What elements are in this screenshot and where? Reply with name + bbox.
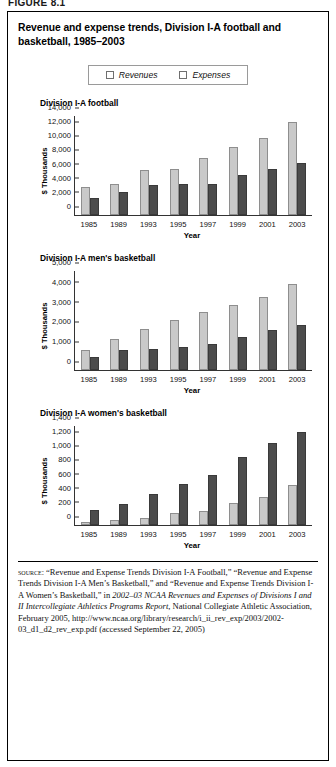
bar-revenues [110,520,119,525]
bar-expenses [238,457,247,525]
bar-expenses [238,337,247,370]
y-tick-label: 2,000 [52,187,75,196]
y-tick-label: 200 [58,497,75,506]
x-tick-label: 1989 [104,220,134,229]
y-tick-label: 600 [58,469,75,478]
y-tick-label: 8,000 [52,145,75,154]
bar-revenues [81,522,90,525]
bar-group [223,271,253,370]
bar-expenses [208,475,217,525]
y-axis-label-womens-basketball: $ Thousands [40,458,49,505]
plot-mens-basketball: $ Thousands 01,0002,0003,0004,0005,000 1… [20,267,318,385]
x-tick-label: 1985 [74,530,104,539]
legend-label-revenues: Revenues [119,70,158,80]
bar-group [282,271,312,370]
bar-group [134,116,164,215]
bar-expenses [90,510,99,525]
bar-expenses [179,184,188,215]
legend-item-revenues: Revenues [106,70,158,80]
bar-revenues [199,158,208,215]
x-tick-label: 1995 [163,220,193,229]
panel-title-football: Division I-A football [40,98,318,108]
bar-expenses [90,357,99,370]
bar-expenses [297,163,306,215]
bar-revenues [199,312,208,370]
bar-revenues [259,497,268,525]
plot-area-football: 02,0004,0006,0008,00010,00012,00014,000 [74,116,312,216]
bar-group [282,426,312,525]
panel-title-womens-basketball: Division I-A women's basketball [40,408,318,418]
bar-expenses [268,169,277,215]
bar-revenues [140,329,149,370]
x-tick-label: 1997 [193,375,223,384]
bar-group [282,116,312,215]
x-axis-title-mens-basketball: Year [66,386,318,395]
bar-group [164,426,194,525]
y-tick-label: 0 [67,357,75,366]
bar-group-container-football [75,116,312,215]
bar-expenses [149,349,158,370]
bar-expenses [90,198,99,215]
bar-expenses [208,344,217,370]
x-tick-label: 2001 [253,375,283,384]
y-tick-label: 1,000 [52,337,75,346]
y-tick-label: 6,000 [52,159,75,168]
bar-group [164,116,194,215]
x-axis-labels-mens-basketball: 19851989199319951997199920012003 [74,375,312,384]
bar-expenses [119,192,128,215]
x-tick-label: 1993 [134,530,164,539]
bar-revenues [259,138,268,215]
bar-revenues [288,284,297,370]
bar-group [194,271,224,370]
source-citation: source: “Revenue and Expense Trends Divi… [18,567,318,635]
bar-expenses [119,350,128,370]
bar-revenues [229,305,238,370]
bar-group [253,271,283,370]
y-axis-label-football: $ Thousands [40,148,49,195]
bar-revenues [140,518,149,525]
plot-womens-basketball: $ Thousands 02004006008001,0001,2001,400… [20,422,318,540]
bar-revenues [81,187,90,215]
bar-group [105,271,135,370]
bar-expenses [297,325,306,370]
bar-group [253,426,283,525]
source-label: source: [18,568,44,577]
bar-expenses [208,184,217,215]
bar-group [194,116,224,215]
bar-group [75,116,105,215]
x-tick-label: 1993 [134,375,164,384]
x-tick-label: 1999 [223,375,253,384]
bar-group [134,271,164,370]
bar-revenues [170,169,179,215]
x-tick-label: 1989 [104,530,134,539]
plot-football: $ Thousands 02,0004,0006,0008,00010,0001… [20,112,318,230]
bar-revenues [259,297,268,370]
bar-revenues [110,339,119,370]
figure-title: Revenue and expense trends, Division I-A… [18,21,318,48]
x-tick-label: 1997 [193,530,223,539]
bar-revenues [199,511,208,525]
bar-group [164,271,194,370]
bar-revenues [170,513,179,525]
y-tick-label: 12,000 [48,117,75,126]
x-tick-label: 2003 [282,220,312,229]
bar-revenues [288,122,297,215]
bar-expenses [268,443,277,525]
x-axis-title-womens-basketball: Year [66,541,318,550]
x-tick-label: 2001 [253,220,283,229]
y-axis-label-mens-basketball: $ Thousands [40,303,49,350]
bar-expenses [149,494,158,525]
y-tick-label: 10,000 [48,131,75,140]
x-tick-label: 1999 [223,220,253,229]
y-tick-label: 1,000 [52,441,75,450]
plot-area-womens-basketball: 02004006008001,0001,2001,400 [74,426,312,526]
bar-group [253,116,283,215]
x-tick-label: 1999 [223,530,253,539]
x-axis-labels-football: 19851989199319951997199920012003 [74,220,312,229]
bar-revenues [81,350,90,370]
x-tick-label: 1985 [74,375,104,384]
x-axis-title-football: Year [66,231,318,240]
bar-group-container-womens-basketball [75,426,312,525]
x-tick-label: 1997 [193,220,223,229]
y-tick-label: 4,000 [52,173,75,182]
